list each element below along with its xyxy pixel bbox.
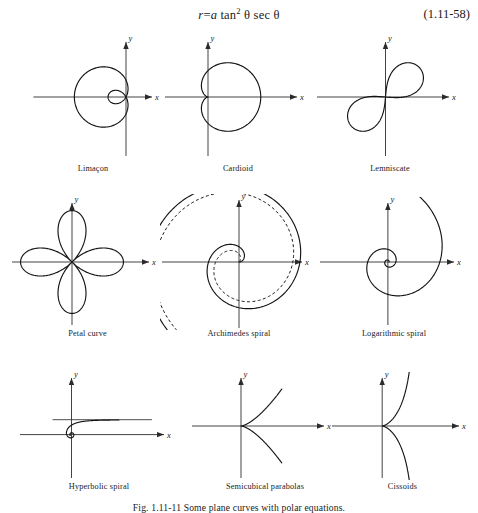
curve-panel-caption: Logarithmic spiral: [318, 329, 470, 338]
y-axis-arrow: [123, 42, 128, 49]
y-axis-arrow: [69, 378, 74, 385]
x-axis-label: x: [299, 92, 304, 102]
y-axis-arrow: [236, 200, 241, 207]
equation-tan: tan: [220, 8, 236, 22]
curve-panel-caption: Hyperbolic spiral: [18, 482, 180, 491]
x-axis-label: x: [461, 421, 466, 431]
y-axis-label: y: [241, 194, 246, 201]
x-axis-arrow: [442, 94, 449, 99]
y-axis-label: y: [243, 372, 248, 379]
figure-caption: Fig. 1.11-11 Some plane curves with pola…: [0, 502, 478, 513]
y-axis-label: y: [73, 372, 78, 379]
x-axis-arrow: [295, 259, 302, 264]
curve-panel-caption: Archimedes spiral: [160, 329, 318, 338]
curve-figure: x y: [160, 194, 318, 330]
curve-panel-caption: Petal curve: [10, 329, 165, 338]
curve-panel-semicubical-parabolas: x y Semicubical parabolas: [190, 372, 340, 496]
curve-figure: x y: [163, 36, 313, 158]
curve-figure: x y: [18, 372, 180, 480]
x-axis-label: x: [154, 92, 159, 102]
y-axis-label: y: [74, 197, 79, 204]
curve-panel-lemniscate: x y Lemniscate: [315, 36, 465, 178]
curve-panel-archimedes-spiral: x y Archimedes spiral: [160, 194, 318, 343]
x-axis-arrow: [145, 94, 152, 99]
equation-sec: sec: [254, 8, 271, 22]
y-axis-label: y: [389, 197, 394, 204]
equation-formula: r=a tan2 θ sec θ: [0, 6, 478, 23]
curve-panel-limacon: x y Limaçon: [18, 36, 168, 178]
curve-panel-cardioid: x y Cardioid: [163, 36, 313, 178]
x-axis-arrow: [290, 94, 297, 99]
x-axis-label: x: [304, 257, 309, 267]
curve-figure: x y: [318, 197, 470, 327]
curve-panel-petal-curve: x y Petal curve: [10, 197, 165, 343]
curve-panel-caption: Lemniscate: [315, 164, 465, 173]
curve-figure: x y: [330, 372, 475, 480]
equation-theta-first: θ: [244, 8, 250, 22]
y-axis-arrow: [69, 203, 74, 210]
curve-panel-logarithmic-spiral: x y Logarithmic spiral: [318, 197, 470, 343]
equation-exponent: 2: [236, 6, 240, 16]
x-axis-arrow: [447, 259, 454, 264]
curve-panel-caption: Limaçon: [18, 164, 168, 173]
x-axis-label: x: [451, 92, 456, 102]
curve-figure: x y: [190, 372, 340, 480]
curve-path: [66, 420, 118, 438]
curve-path: [318, 197, 442, 296]
y-axis-arrow: [238, 378, 243, 385]
x-axis-arrow: [157, 432, 164, 437]
equation-equals: =: [203, 8, 210, 22]
y-axis-label: y: [387, 36, 392, 43]
equation-number: (1.11-58): [424, 7, 470, 22]
curve-panel-caption: Cissoids: [330, 482, 475, 491]
curve-figure: x y: [18, 36, 168, 158]
y-axis-arrow: [380, 378, 385, 385]
x-axis-arrow: [452, 423, 459, 428]
curve-panel-hyperbolic-spiral: x y Hyperbolic spiral: [18, 372, 180, 496]
y-axis-arrow: [385, 203, 390, 210]
y-axis-label: y: [128, 36, 133, 43]
x-axis-label: x: [151, 257, 156, 267]
curve-panel-cissoids: x y Cissoids: [330, 372, 475, 496]
curve-figure: x y: [315, 36, 465, 158]
equation-coefficient-a: a: [211, 8, 217, 22]
x-axis-arrow: [142, 259, 149, 264]
equation-theta-second: θ: [273, 8, 279, 22]
y-axis-label: y: [210, 36, 215, 43]
y-axis-arrow: [205, 42, 210, 49]
curve-panel-caption: Semicubical parabolas: [190, 482, 340, 491]
curve-figure: x y: [10, 197, 165, 327]
x-axis-label: x: [456, 257, 461, 267]
curve-panel-caption: Cardioid: [163, 164, 313, 173]
x-axis-arrow: [317, 423, 324, 428]
curve-panel-grid: x y Limaçon x y Cardioid x y Lemniscate …: [0, 32, 478, 502]
y-axis-label: y: [384, 372, 389, 379]
y-axis-arrow: [383, 42, 388, 49]
x-axis-label: x: [166, 430, 171, 440]
equation-row: r=a tan2 θ sec θ (1.11-58): [0, 6, 478, 28]
